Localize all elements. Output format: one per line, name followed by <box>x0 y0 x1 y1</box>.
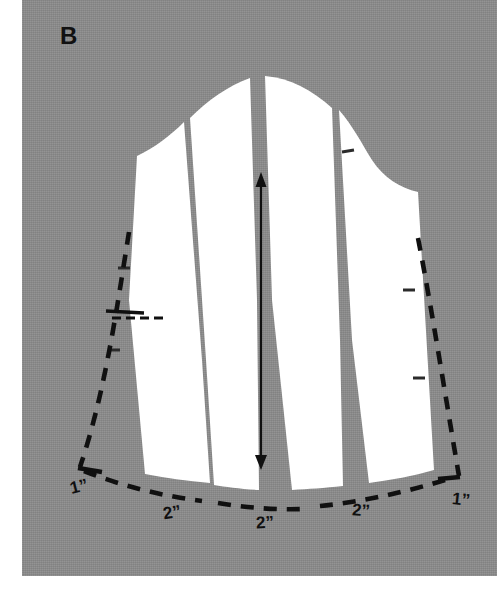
dimension-label-left-inner: 2” <box>162 502 183 525</box>
dimension-label-center: 2” <box>255 513 274 534</box>
plate-label: B <box>60 22 77 50</box>
pattern-drawing <box>22 0 497 576</box>
pattern-panels <box>129 76 434 490</box>
pattern-panel-4 <box>339 110 434 483</box>
dashed-right-foot <box>438 477 460 479</box>
dimension-label-right-inner: 2” <box>351 500 370 521</box>
cap-right-notch <box>342 150 354 152</box>
grainline-arrowhead-top <box>256 172 267 187</box>
left-dart-guide-solid <box>106 311 144 313</box>
dimension-label-right-edge: 1” <box>451 489 471 511</box>
figure-plate: B 1” 2” 2” 2” 1” <box>22 0 497 576</box>
pattern-panel-3 <box>265 76 343 490</box>
figure-container: B 1” 2” 2” 2” 1” <box>0 0 497 598</box>
dashed-hem-center <box>218 503 304 509</box>
